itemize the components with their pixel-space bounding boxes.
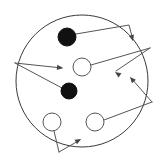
- diagram-container: [0, 0, 164, 163]
- open-node-bottom-left: [43, 113, 61, 131]
- filled-node-upper: [58, 28, 76, 46]
- outer-boundary-circle: [16, 15, 148, 147]
- open-node-center: [73, 58, 91, 76]
- node-link-diagram: [0, 0, 164, 163]
- filled-node-lower: [61, 83, 77, 99]
- open-node-bottom-right: [86, 113, 104, 131]
